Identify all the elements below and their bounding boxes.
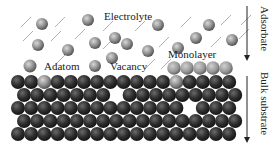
bulk-substrate-label: Bulk substrate (259, 72, 270, 135)
substrate-atom (83, 88, 97, 102)
substrate-atom (175, 114, 189, 128)
substrate-atom (51, 127, 65, 141)
substrate-atom (209, 75, 223, 89)
substrate-atom (11, 127, 25, 141)
substrate-atom (143, 127, 157, 141)
substrate-atom (77, 127, 91, 141)
substrate-atom (215, 88, 229, 102)
substrate-atom (149, 88, 163, 102)
electrolyte-atom (142, 45, 154, 57)
electrolyte-label: Electrolyte (104, 11, 152, 22)
slash-mark (75, 29, 85, 39)
electrolyte-atom (152, 19, 164, 31)
slash-mark (55, 17, 65, 27)
substrate-atom (136, 88, 150, 102)
substrate-atom (202, 88, 216, 102)
substrate-atom (70, 114, 84, 128)
adatom-atom (24, 60, 37, 73)
substrate-atom (11, 75, 25, 89)
substrate-atom (143, 75, 157, 89)
slash-mark (103, 21, 113, 31)
substrate-atom (183, 75, 197, 89)
substrate-atom (103, 127, 117, 141)
electrolyte-atom (82, 14, 94, 26)
substrate-atom (51, 101, 65, 115)
electrolyte-atom (121, 38, 133, 50)
slash-mark (181, 17, 191, 27)
adatom-sphere (24, 60, 37, 73)
substituted-atom (169, 75, 183, 89)
substrate-atom (143, 101, 157, 115)
direction-arrows (244, 6, 250, 143)
substrate-atom (64, 75, 78, 89)
substrate-atom (228, 88, 242, 102)
adatom-label: Adatom (44, 61, 79, 72)
substrate-atom (196, 75, 210, 89)
substrate-atom (183, 127, 197, 141)
substrate-atom (222, 127, 236, 141)
substrate-atom (162, 88, 176, 102)
substrate-atom (162, 114, 176, 128)
electrolyte-atom (36, 18, 48, 30)
substrate-atom (189, 88, 203, 102)
substrate-atom (169, 127, 183, 141)
bulk-arrow-icon (244, 137, 250, 143)
substrate-atom (156, 75, 170, 89)
monolayer-label: Monolayer (168, 49, 216, 60)
substrate-atom (83, 114, 97, 128)
substrate-atom (130, 101, 144, 115)
monolayer-spheres (167, 61, 233, 75)
substrate-atom (57, 88, 71, 102)
atomic-structure-graphic (0, 0, 278, 148)
substrate-atom (24, 127, 38, 141)
slash-mark (211, 37, 221, 47)
substrate-atom (222, 101, 236, 115)
adsorbate-arrow-icon (244, 55, 250, 61)
substrate-atom (175, 88, 189, 102)
substrate-atom (189, 114, 203, 128)
substrate-atom (37, 101, 51, 115)
substrate-atom (43, 88, 57, 102)
slash-mark (159, 37, 169, 47)
substrate-atom (51, 75, 65, 89)
monolayer-atom (180, 61, 194, 75)
electrolyte-atom (203, 19, 215, 31)
substrate-atom (64, 127, 78, 141)
substrate-atom (156, 101, 170, 115)
substrate-atom (196, 101, 210, 115)
substrate-atom (117, 101, 131, 115)
interface-diagram: Electrolyte Adatom Vacancy Monolayer Ads… (0, 0, 278, 148)
substrate-atom (30, 88, 44, 102)
substrate-atom (17, 88, 31, 102)
adsorbate-label: Adsorbate (259, 6, 270, 51)
substrate-atom (149, 114, 163, 128)
substrate-atom (17, 114, 31, 128)
substrate-atom (130, 127, 144, 141)
vacancy-marker-atom (89, 60, 101, 72)
substrate-atom (90, 75, 104, 89)
substrate-atom (57, 114, 71, 128)
substrate-atom (37, 127, 51, 141)
electrolyte-atom (226, 34, 238, 46)
slash-mark (23, 31, 33, 41)
monolayer-atom (206, 61, 220, 75)
substrate-atom (90, 101, 104, 115)
monolayer-atom (219, 61, 233, 75)
substrate-atom (43, 114, 57, 128)
electrolyte-atom (109, 32, 121, 44)
substrate-atom (136, 114, 150, 128)
substrate-atom (103, 75, 117, 89)
slash-mark (241, 15, 251, 25)
electrolyte-atom (62, 44, 74, 56)
substrate-atom (117, 75, 131, 89)
substrate-atom (169, 101, 183, 115)
substrate-atom (30, 114, 44, 128)
substrate-atom (11, 101, 25, 115)
substrate-atom (96, 114, 110, 128)
slash-mark (221, 15, 231, 25)
substrate-atom (103, 101, 117, 115)
substrate-atom (90, 127, 104, 141)
electrolyte-atom (190, 32, 202, 44)
bulk-substrate-spheres (11, 75, 242, 141)
vacancy-label: Vacancy (110, 61, 147, 72)
